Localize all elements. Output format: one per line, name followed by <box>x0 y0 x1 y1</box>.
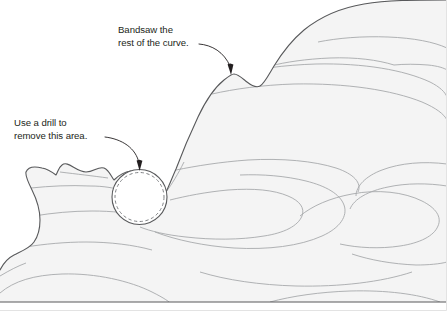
drill-hole-outer <box>112 170 167 225</box>
bandsaw-note-line-1: Bandsaw the <box>118 24 173 35</box>
drill-note-line-1: Use a drill to <box>14 117 67 128</box>
bandsaw-arrowhead-icon <box>228 64 234 75</box>
drill-note-line-2: remove this area. <box>14 130 87 141</box>
diagram-canvas: Bandsaw the rest of the curve. Use a dri… <box>0 0 447 311</box>
annotation-bandsaw-note: Bandsaw the rest of the curve. <box>118 24 189 48</box>
annotation-drill-note: Use a drill to remove this area. <box>14 117 87 141</box>
wood-workpiece <box>0 0 447 305</box>
drill-hole <box>112 170 167 225</box>
bandsaw-note-line-2: rest of the curve. <box>118 37 189 48</box>
figure-container: Bandsaw the rest of the curve. Use a dri… <box>0 0 447 311</box>
drill-leader-line <box>105 137 139 163</box>
workpiece-fill <box>0 0 447 302</box>
bandsaw-leader-line <box>199 44 230 66</box>
